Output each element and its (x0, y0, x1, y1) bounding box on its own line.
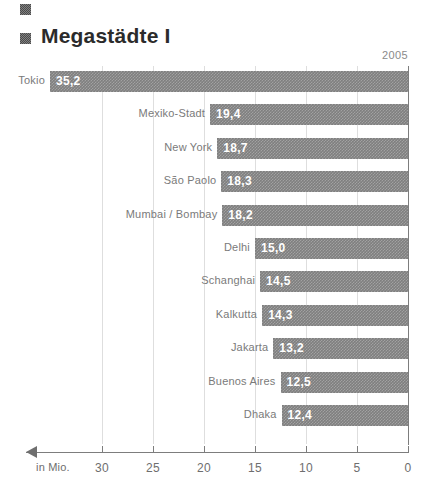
axis-tick (102, 446, 103, 453)
bar[interactable]: 12,5 (281, 372, 409, 393)
bar[interactable]: 14,3 (262, 305, 408, 326)
bar-row[interactable]: Dhaka12,4 (0, 405, 421, 426)
bar-value-label: 15,0 (261, 241, 286, 255)
bar-row[interactable]: Buenos Aires12,5 (0, 372, 421, 393)
bar-value-label: 19,4 (216, 107, 241, 121)
axis-tick (408, 446, 409, 453)
bar[interactable]: 14,5 (260, 271, 408, 292)
bar-value-label: 18,3 (227, 174, 252, 188)
year-label: 2005 (382, 49, 408, 61)
bar-row[interactable]: Kalkutta14,3 (0, 305, 421, 326)
axis-tick (306, 446, 307, 453)
bar-category-label: Schanghai (201, 274, 255, 286)
bar-category-label: Dhaka (244, 408, 277, 420)
axis-arrow-icon (26, 446, 37, 458)
bar-row[interactable]: São Paolo18,3 (0, 171, 421, 192)
bar-value-label: 35,2 (56, 74, 81, 88)
bar-value-label: 12,4 (288, 408, 313, 422)
axis-tick-label: 25 (146, 461, 160, 475)
bar[interactable]: 18,2 (222, 205, 408, 226)
bar-value-label: 12,5 (287, 375, 312, 389)
bar[interactable]: 15,0 (255, 238, 408, 259)
bar-value-label: 18,7 (223, 141, 248, 155)
bar-row[interactable]: New York18,7 (0, 138, 421, 159)
bar-chart: 2005 Tokio35,2Mexiko-Stadt19,4New York18… (0, 0, 421, 489)
axis-tick (204, 446, 205, 453)
axis-tick (357, 446, 358, 453)
bar-category-label: Tokio (18, 74, 45, 86)
bar-row[interactable]: Delhi15,0 (0, 238, 421, 259)
bar-category-label: Jakarta (231, 341, 268, 353)
bar-row[interactable]: Mumbai / Bombay18,2 (0, 205, 421, 226)
bar[interactable]: 18,7 (217, 138, 408, 159)
bar-value-label: 14,3 (268, 308, 293, 322)
axis-tick (255, 446, 256, 453)
bar-row[interactable]: Mexiko-Stadt19,4 (0, 104, 421, 125)
bar-category-label: Kalkutta (216, 308, 257, 320)
axis-tick (153, 446, 154, 453)
bar[interactable]: 18,3 (221, 171, 408, 192)
axis-tick-label: 10 (299, 461, 313, 475)
bar-row[interactable]: Jakarta13,2 (0, 338, 421, 359)
axis-tick-label: 5 (354, 461, 361, 475)
bar-category-label: Mexiko-Stadt (139, 107, 206, 119)
axis-baseline (26, 452, 409, 453)
bar-category-label: Buenos Aires (208, 375, 275, 387)
axis-tick-label: 15 (248, 461, 262, 475)
bar[interactable]: 19,4 (210, 104, 408, 125)
bar[interactable]: 13,2 (273, 338, 408, 359)
bar-row[interactable]: Tokio35,2 (0, 71, 421, 92)
bar-value-label: 13,2 (279, 341, 304, 355)
bar-value-label: 14,5 (266, 274, 291, 288)
bar-row[interactable]: Schanghai14,5 (0, 271, 421, 292)
axis-tick-label: 30 (95, 461, 109, 475)
bar-category-label: São Paolo (164, 174, 217, 186)
bar[interactable]: 35,2 (50, 71, 408, 92)
axis-tick-label: 20 (197, 461, 211, 475)
bar-category-label: Mumbai / Bombay (126, 208, 218, 220)
bar[interactable]: 12,4 (282, 405, 408, 426)
axis-tick-label: 0 (405, 461, 412, 475)
bar-value-label: 18,2 (228, 208, 253, 222)
bar-category-label: New York (164, 141, 212, 153)
axis-unit-label: in Mio. (36, 461, 70, 473)
bar-category-label: Delhi (224, 241, 250, 253)
